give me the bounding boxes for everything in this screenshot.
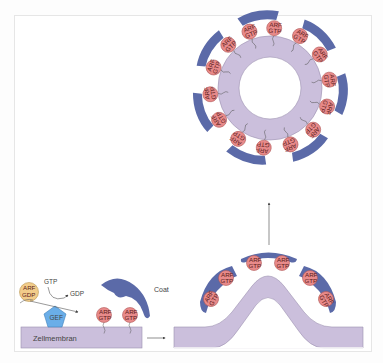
svg-text:GTP: GTP bbox=[305, 277, 318, 284]
arf-gtp-molecule: ARFGTP bbox=[202, 86, 218, 103]
gtp-label: GTP bbox=[44, 278, 57, 285]
gtp-gdp-exchange-arrow bbox=[48, 287, 68, 299]
arf-gdp-molecule: ARF GDP bbox=[20, 283, 39, 304]
arf-gtp-molecule: ARF GTP bbox=[247, 256, 262, 271]
stage-budding: ARF GTP ARF GTP ARF GTP ARF GTP ARF GTP … bbox=[174, 253, 363, 349]
stage-vesicle: ARFGTP ARFGTP ARFGTP ARFGTP ARFGTP ARFGT… bbox=[189, 7, 349, 168]
arf-gtp-molecule: ARF GTP bbox=[275, 256, 290, 271]
svg-text:GTP: GTP bbox=[125, 314, 138, 321]
svg-text:GTP: GTP bbox=[209, 86, 217, 99]
svg-text:GTP: GTP bbox=[268, 27, 281, 35]
arf-gtp-molecule: ARFGTP bbox=[266, 20, 282, 36]
stage-flat-membrane: Zellmembran GEF ARF GDP GTP GDP Coat ARF… bbox=[20, 278, 169, 348]
copi-vesicle-diagram: Zellmembran GEF ARF GDP GTP GDP Coat ARF… bbox=[0, 0, 383, 363]
svg-text:GTP: GTP bbox=[256, 141, 269, 149]
arf-gtp-molecule: ARF GTP bbox=[219, 271, 234, 286]
svg-text:GTP: GTP bbox=[221, 277, 234, 284]
svg-text:GTP: GTP bbox=[323, 74, 332, 88]
arf-gtp-molecule: ARF GTP bbox=[303, 271, 318, 286]
svg-text:GDP: GDP bbox=[22, 291, 35, 298]
svg-text:GTP: GTP bbox=[277, 262, 290, 269]
svg-text:ARF: ARF bbox=[23, 284, 36, 291]
arf-gtp-molecule: ARFGTP bbox=[321, 71, 338, 88]
svg-text:GTP: GTP bbox=[249, 262, 262, 269]
coat-label: Coat bbox=[154, 286, 169, 293]
gdp-label: GDP bbox=[70, 290, 84, 297]
gef-icon: GEF bbox=[44, 306, 66, 327]
membrane-label: Zellmembran bbox=[33, 334, 77, 343]
gef-label: GEF bbox=[50, 314, 63, 321]
arf-gtp-molecule: ARFGTP bbox=[255, 139, 272, 155]
svg-text:GTP: GTP bbox=[99, 314, 112, 321]
